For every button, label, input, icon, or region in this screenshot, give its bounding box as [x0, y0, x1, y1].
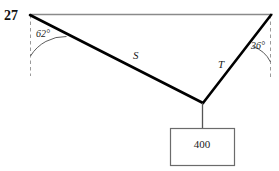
- left-angle-arc: [31, 36, 67, 56]
- problem-number: 27: [4, 9, 18, 23]
- left-cable-label: S: [133, 49, 139, 61]
- right-cable-line: [203, 15, 271, 103]
- figure-canvas: [0, 0, 279, 171]
- statics-figure: 27 62° 36° S T 400: [0, 0, 279, 171]
- left-cable-line: [30, 15, 203, 103]
- right-cable-label: T: [218, 58, 224, 70]
- right-angle-label: 36°: [251, 40, 265, 51]
- load-weight-label: 400: [170, 138, 234, 150]
- left-angle-label: 62°: [36, 28, 50, 39]
